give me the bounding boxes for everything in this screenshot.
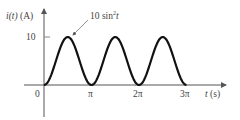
x-tick-label-3pi: 3π xyxy=(180,89,190,99)
x-axis-label: t (s) xyxy=(205,89,220,100)
x-tick-label-2pi: 2π xyxy=(133,89,143,99)
x-tick-label-pi: π xyxy=(88,89,93,99)
y-axis-label: i(t) (A) xyxy=(6,11,33,22)
chart: i(t) (A) 10 0 π 2π 3π t (s) 10 sin2t xyxy=(0,0,240,120)
x-tick-label-0: 0 xyxy=(35,89,40,99)
curve-10sin2t xyxy=(44,37,187,85)
curve-annotation: 10 sin2t xyxy=(90,10,119,21)
annotation-pointer xyxy=(73,20,88,35)
y-tick-label-10: 10 xyxy=(26,32,36,42)
